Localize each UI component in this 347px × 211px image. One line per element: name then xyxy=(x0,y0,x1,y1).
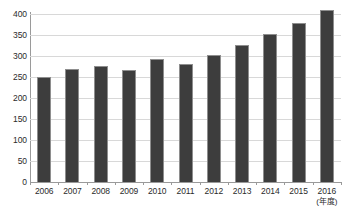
x-tick-label: 2015 xyxy=(284,187,312,196)
x-tick-label: 2011 xyxy=(171,187,199,196)
y-tick-label: 150 xyxy=(1,115,27,124)
bar xyxy=(179,64,193,182)
x-tick-label: 2006 xyxy=(30,187,58,196)
x-tick-mark xyxy=(200,182,201,185)
x-tick-mark xyxy=(87,182,88,185)
bar xyxy=(207,55,221,182)
x-tick-mark xyxy=(256,182,257,185)
x-tick-label: 2009 xyxy=(115,187,143,196)
plot-area xyxy=(30,14,341,182)
y-axis-labels: 050100150200250300350400 xyxy=(0,0,27,211)
x-tick-mark xyxy=(228,182,229,185)
x-tick-mark xyxy=(284,182,285,185)
x-tick-mark xyxy=(171,182,172,185)
x-tick-label: 2016 xyxy=(313,187,341,196)
gridline xyxy=(30,14,341,15)
x-tick-mark xyxy=(30,182,31,185)
bar xyxy=(122,70,136,182)
x-tick-label: 2014 xyxy=(256,187,284,196)
x-tick-mark xyxy=(115,182,116,185)
x-tick-label: 2008 xyxy=(87,187,115,196)
bar xyxy=(65,69,79,182)
bar xyxy=(37,77,51,182)
axis-baseline xyxy=(30,182,341,183)
y-tick-label: 400 xyxy=(1,10,27,19)
x-tick-mark xyxy=(143,182,144,185)
x-tick-label: 2012 xyxy=(200,187,228,196)
y-tick-label: 200 xyxy=(1,94,27,103)
x-tick-mark xyxy=(313,182,314,185)
x-axis-unit-label: (年度) xyxy=(313,198,341,206)
x-tick-label: 2010 xyxy=(143,187,171,196)
bar xyxy=(150,59,164,182)
y-tick-label: 0 xyxy=(1,178,27,187)
bar xyxy=(320,10,334,182)
x-tick-label: 2007 xyxy=(58,187,86,196)
bar xyxy=(292,23,306,182)
bar xyxy=(235,45,249,182)
y-tick-label: 350 xyxy=(1,31,27,40)
y-tick-label: 100 xyxy=(1,136,27,145)
bar xyxy=(263,34,277,182)
x-tick-mark xyxy=(58,182,59,185)
bar-chart: 050100150200250300350400 200620072008200… xyxy=(0,0,347,211)
y-tick-label: 50 xyxy=(1,157,27,166)
y-tick-label: 300 xyxy=(1,52,27,61)
x-tick-label: 2013 xyxy=(228,187,256,196)
x-tick-mark xyxy=(341,182,342,185)
y-tick-label: 250 xyxy=(1,73,27,82)
bar xyxy=(94,66,108,182)
